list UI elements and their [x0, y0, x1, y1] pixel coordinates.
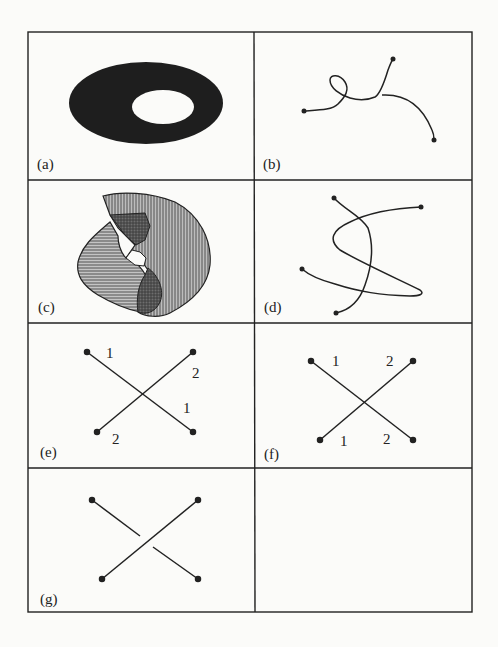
panel-f	[309, 359, 416, 443]
panel-label-a: (a)	[37, 156, 54, 173]
panel-b: (b)	[263, 57, 437, 174]
figure-grid: (a) (b) (c) (d) 1 2 1 2	[0, 0, 498, 647]
panel-a: (a)	[37, 62, 223, 173]
svg-text:2: 2	[112, 431, 120, 447]
panel-f-numbers: 1 2 1 2 (f)	[264, 353, 394, 463]
panel-label-g: (g)	[40, 591, 58, 608]
panel-e	[85, 350, 196, 435]
panel-g	[90, 498, 201, 582]
panel-d: (d)	[264, 196, 424, 317]
loop-curve	[304, 59, 434, 140]
svg-text:1: 1	[332, 353, 340, 369]
panel-label-d: (d)	[264, 299, 282, 316]
svg-text:1: 1	[106, 345, 114, 361]
svg-text:1: 1	[340, 433, 348, 449]
svg-text:2: 2	[383, 431, 391, 447]
ring-hole	[132, 90, 194, 124]
panel-label-e: (e)	[40, 444, 57, 461]
svg-text:1: 1	[183, 400, 191, 416]
svg-text:2: 2	[386, 353, 394, 369]
panel-label-c: (c)	[38, 299, 55, 316]
panel-c: (c)	[38, 193, 210, 316]
panel-e-numbers: 1 2 1 2 (e)	[40, 345, 200, 461]
panel-label-f: (f)	[264, 446, 279, 463]
crossing-curve	[302, 198, 422, 313]
panel-label-b: (b)	[263, 156, 281, 173]
svg-text:2: 2	[192, 365, 200, 381]
